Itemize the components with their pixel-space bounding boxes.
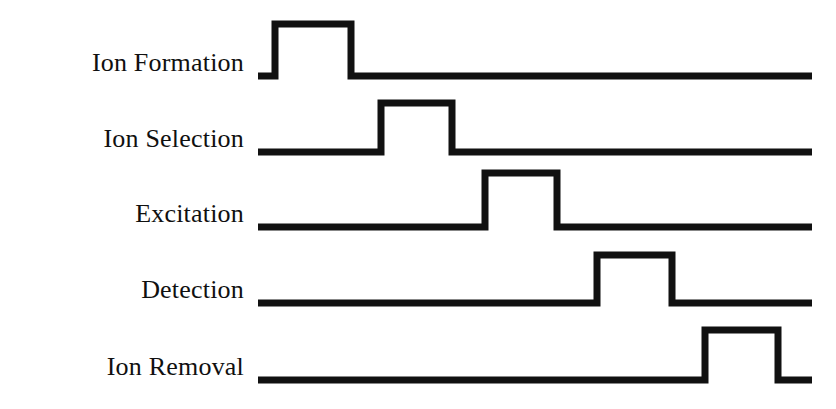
waveform-ion-selection [258,103,812,152]
waveform-ion-removal [258,330,812,380]
timing-diagram: Ion Formation Ion Selection Excitation D… [0,0,836,409]
waveform-canvas [0,0,836,409]
waveform-excitation [258,173,812,227]
waveform-detection [258,255,812,303]
waveform-ion-formation [258,24,812,76]
